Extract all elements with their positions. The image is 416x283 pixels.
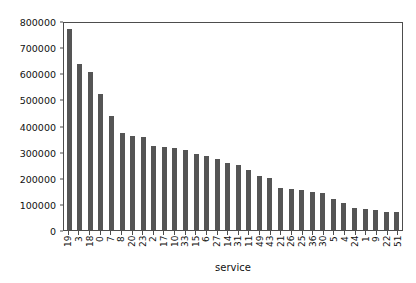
x-axis-tick-label: 33 (180, 236, 190, 260)
x-axis-tick-mark (312, 231, 313, 235)
bar (352, 208, 357, 230)
x-axis-tick-mark (270, 231, 271, 235)
bar (141, 137, 146, 230)
bar (77, 64, 82, 230)
bar (373, 210, 378, 230)
x-axis-tick-label: 15 (191, 236, 201, 260)
y-axis-tick-label: 600000 (20, 69, 60, 80)
x-axis-tick-label: 20 (127, 236, 137, 260)
x-axis-tick-mark (365, 231, 366, 235)
x-axis-tick-label: 43 (265, 236, 275, 260)
x-axis-tick-mark (280, 231, 281, 235)
x-axis-tick-mark (259, 231, 260, 235)
x-axis-tick-mark (355, 231, 356, 235)
x-axis-tick-label: 51 (393, 236, 403, 260)
bar (162, 147, 167, 230)
y-axis-tick: 800000 (20, 17, 63, 28)
x-axis-tick-label: 36 (308, 236, 318, 260)
y-axis-tick-label: 700000 (20, 43, 60, 54)
bar (320, 193, 325, 230)
x-axis-tick-label: 0 (95, 236, 105, 260)
x-axis-tick-mark (121, 231, 122, 235)
bar (120, 133, 125, 230)
bar (331, 199, 336, 230)
x-axis-tick-label: 6 (201, 236, 211, 260)
y-axis-tick: 300000 (20, 147, 63, 158)
y-axis-tick-label: 400000 (20, 121, 60, 132)
x-axis-tick-mark (142, 231, 143, 235)
x-axis-tick-label: 26 (286, 236, 296, 260)
bar (151, 146, 156, 230)
x-axis-tick-label: 5 (329, 236, 339, 260)
x-axis-tick-mark (248, 231, 249, 235)
x-axis-tick-label: 11 (244, 236, 254, 260)
bar (394, 212, 399, 230)
x-axis-tick-mark (68, 231, 69, 235)
x-axis-tick-mark (387, 231, 388, 235)
y-axis-tick: 500000 (20, 95, 63, 106)
bar (98, 94, 103, 230)
bar-series (64, 23, 402, 230)
x-axis-tick-mark (376, 231, 377, 235)
bar (257, 176, 262, 230)
y-axis-tick-label: 200000 (20, 173, 60, 184)
x-axis-tick-mark (333, 231, 334, 235)
bar (299, 190, 304, 230)
bar (341, 203, 346, 230)
y-axis-tick: 700000 (20, 43, 63, 54)
x-axis-tick-label: 19 (63, 236, 73, 260)
y-axis-tick-label: 100000 (20, 199, 60, 210)
y-axis-tick: 400000 (20, 121, 63, 132)
y-axis-tick-label: 500000 (20, 95, 60, 106)
bar-chart-figure: 0100000200000300000400000500000600000700… (0, 0, 416, 283)
x-axis-tick-label: 10 (170, 236, 180, 260)
bar (289, 189, 294, 230)
x-axis-tick-mark (132, 231, 133, 235)
x-axis-title: service (63, 262, 403, 273)
bar (278, 188, 283, 230)
x-axis-tick-mark (323, 231, 324, 235)
x-axis-tick-label: 8 (116, 236, 126, 260)
bar (130, 136, 135, 230)
x-axis-tick-label: 22 (382, 236, 392, 260)
y-axis-tick: 0 (50, 226, 63, 237)
x-axis-tick-mark (163, 231, 164, 235)
x-axis-tick-label: 1 (361, 236, 371, 260)
plot-area (63, 22, 403, 231)
x-axis-tick-mark (291, 231, 292, 235)
x-axis-tick-mark (238, 231, 239, 235)
x-axis-tick-mark (302, 231, 303, 235)
x-axis-tick-labels: 1931807820232171033156271431114943212625… (63, 236, 403, 260)
x-axis-tick-label: 21 (276, 236, 286, 260)
x-axis-tick-mark (174, 231, 175, 235)
y-axis-tick: 200000 (20, 173, 63, 184)
x-axis-tick-label: 2 (148, 236, 158, 260)
x-axis-tick-mark (344, 231, 345, 235)
bar (267, 178, 272, 230)
x-axis-tick-mark (100, 231, 101, 235)
x-axis-tick-mark (195, 231, 196, 235)
x-axis-tick-label: 14 (223, 236, 233, 260)
x-axis-tick-label: 18 (85, 236, 95, 260)
bar (109, 116, 114, 230)
bar (215, 159, 220, 230)
y-axis-tick-label: 0 (50, 226, 60, 237)
bar (172, 148, 177, 230)
x-axis-tick-mark (89, 231, 90, 235)
x-axis-tick-label: 30 (318, 236, 328, 260)
bar (67, 29, 72, 230)
bar (310, 192, 315, 230)
x-axis-tick-mark (153, 231, 154, 235)
y-axis-tick-label: 300000 (20, 147, 60, 158)
x-axis-tick-mark (217, 231, 218, 235)
x-axis-tick-mark (206, 231, 207, 235)
bar (194, 154, 199, 230)
x-axis-tick-label: 7 (106, 236, 116, 260)
bar (88, 72, 93, 230)
bar (246, 170, 251, 230)
bar (204, 156, 209, 230)
x-axis-tick-mark (78, 231, 79, 235)
y-axis-tick: 100000 (20, 199, 63, 210)
x-axis-tick-label: 3 (74, 236, 84, 260)
bar (225, 163, 230, 230)
